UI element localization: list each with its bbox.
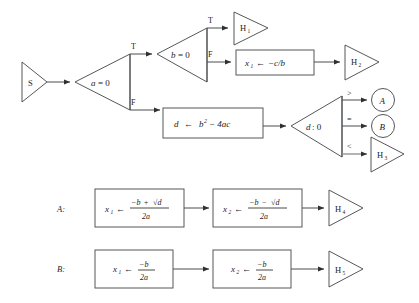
- terminal-h4-sub: 4: [343, 209, 346, 215]
- terminal-h5[interactable]: H 5: [329, 251, 363, 287]
- branch-label-d-equal: =: [347, 115, 352, 124]
- row-a-step1-num-radical: √d: [153, 198, 162, 207]
- branch-label-d-greater: >: [347, 89, 352, 98]
- terminal-h3-sub: 3: [385, 155, 388, 161]
- process-x1-neg-c-over-b[interactable]: x 1 ← −c/b: [236, 50, 314, 75]
- process-discriminant[interactable]: d ← b 2 − 4ac: [163, 108, 263, 138]
- terminal-h5-sub: 5: [343, 270, 346, 276]
- row-b-step1-lhs-sub: 1: [119, 269, 122, 275]
- row-b-step2-arrow: ←: [242, 264, 251, 274]
- process-d-lhs: d: [174, 119, 179, 129]
- process-x1-lhs: x: [244, 58, 249, 68]
- process-d-rhs-sup: 2: [204, 118, 207, 124]
- start-node-label: S: [28, 78, 33, 88]
- row-a-step2-lhs-sub: 2: [229, 209, 232, 215]
- terminal-h1-sub: 1: [248, 28, 251, 34]
- terminal-h4-label: H: [335, 204, 341, 214]
- row-b-step2-lhs: x: [230, 264, 235, 274]
- process-d-arrow: ←: [184, 119, 193, 129]
- row-a-step2-num-a: −b: [249, 198, 258, 207]
- row-a-step1-num-op: +: [144, 198, 148, 207]
- start-node-s[interactable]: S: [22, 62, 47, 102]
- row-b-step2-num-a: −b: [257, 260, 266, 269]
- decision-a-label-var: a: [91, 78, 96, 88]
- row-b-step1-lhs: x: [112, 264, 117, 274]
- terminal-h2-label: H: [351, 57, 357, 67]
- decision-a-equals-zero[interactable]: a = 0: [75, 54, 130, 110]
- decision-b-equals-zero[interactable]: b = 0: [157, 28, 207, 82]
- branch-label-b-false: F: [208, 50, 213, 59]
- row-a-step1-den: 2a: [142, 212, 150, 221]
- row-a-step2-den: 2a: [260, 212, 268, 221]
- row-b-step2-box[interactable]: x 2 ← −b 2a: [213, 250, 291, 288]
- connector-b-label: B: [380, 122, 386, 132]
- terminal-h3-label: H: [377, 150, 383, 160]
- row-a-step2-box[interactable]: x 2 ← −b − √d 2a: [213, 189, 302, 227]
- row-b-step1-box[interactable]: x 1 ← −b 2a: [95, 250, 173, 288]
- flowchart-canvas: S a = 0 T F b = 0 T F H: [0, 0, 419, 303]
- terminal-h4[interactable]: H 4: [329, 190, 363, 226]
- terminal-h2[interactable]: H 2: [345, 45, 379, 80]
- row-a-step2-arrow: ←: [234, 204, 243, 214]
- decision-b-label-var: b: [171, 50, 176, 60]
- process-x1-rhs: −c/b: [268, 58, 286, 68]
- connector-a-label: A: [379, 96, 386, 106]
- terminal-h2-sub: 2: [359, 62, 362, 68]
- decision-d-label-var: d: [306, 122, 311, 132]
- row-b-label: B:: [57, 264, 65, 274]
- process-x1-lhs-sub: 1: [251, 63, 254, 69]
- decision-d-label-rest: : 0: [312, 122, 322, 132]
- row-a-step1-box[interactable]: x 1 ← −b + √d 2a: [95, 189, 184, 227]
- terminal-h5-label: H: [335, 265, 341, 275]
- process-x1-arrow: ←: [256, 58, 265, 68]
- row-a-step1-lhs: x: [104, 204, 109, 214]
- terminal-h1[interactable]: H 1: [234, 12, 268, 45]
- row-a-label: A:: [56, 204, 65, 214]
- decision-b-label-rest: = 0: [178, 50, 190, 60]
- row-a-step1-arrow: ←: [116, 204, 125, 214]
- row-b-step1-den: 2a: [140, 273, 148, 282]
- terminal-h3[interactable]: H 3: [371, 137, 404, 172]
- row-b-step1-num-a: −b: [139, 260, 148, 269]
- row-b-step2-den: 2a: [258, 273, 266, 282]
- row-a-step2-num-radical: √d: [271, 198, 280, 207]
- connector-circle-b[interactable]: B: [372, 115, 395, 138]
- branch-label-d-less: <: [347, 142, 352, 151]
- decision-d-compare-zero[interactable]: d : 0: [291, 96, 342, 157]
- branch-label-a-false: F: [131, 98, 136, 107]
- process-d-rhs-tail: − 4ac: [209, 119, 230, 129]
- terminal-h1-label: H: [240, 23, 246, 33]
- row-a-step1-lhs-sub: 1: [111, 209, 114, 215]
- row-b-step2-lhs-sub: 2: [237, 269, 240, 275]
- row-a-step1-num-a: −b: [131, 198, 140, 207]
- row-a-step2-lhs: x: [222, 204, 227, 214]
- branch-label-a-true: T: [131, 42, 136, 51]
- row-a-step2-num-op: −: [262, 198, 266, 207]
- flowchart-svg: S a = 0 T F b = 0 T F H: [0, 0, 419, 303]
- decision-a-label-rest: = 0: [98, 78, 110, 88]
- connector-circle-a[interactable]: A: [372, 89, 395, 112]
- row-b-step1-arrow: ←: [124, 264, 133, 274]
- branch-label-b-true: T: [208, 16, 213, 25]
